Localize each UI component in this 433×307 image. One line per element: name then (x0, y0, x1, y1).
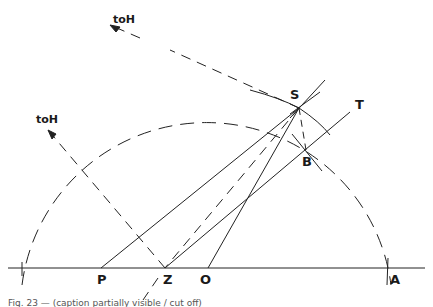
label-t: T (355, 98, 364, 111)
line-z-toH-left (48, 130, 165, 268)
arrow-to-h-top (110, 25, 120, 32)
label-p: P (97, 273, 107, 286)
tick-a (387, 258, 388, 285)
line-s-toH-top (170, 50, 299, 108)
label-z: Z (163, 273, 172, 286)
line-s-z-dashed (165, 108, 299, 268)
line-below-z (143, 278, 158, 300)
line-z-t (165, 112, 350, 268)
line-s-o (208, 108, 299, 268)
label-a: A (390, 273, 400, 286)
geometric-diagram (0, 0, 433, 307)
label-o: O (200, 273, 211, 286)
label-s: S (290, 88, 299, 101)
label-to-h-left: toH (36, 114, 58, 125)
label-to-h-top: toH (113, 14, 135, 25)
line-s-p (101, 108, 299, 268)
dashed-circle-arc (22, 123, 391, 285)
figure-caption: Fig. 23 — (caption partially visible / c… (8, 298, 428, 307)
label-b: B (302, 155, 312, 168)
